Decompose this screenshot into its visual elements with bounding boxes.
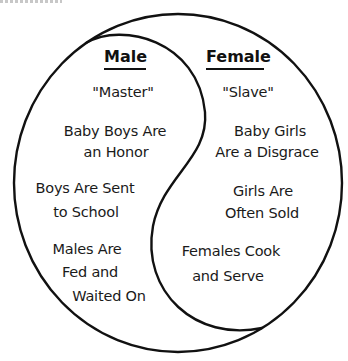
male-item-baby-boys-line2: an Honor — [76, 142, 156, 163]
female-item-baby-girls-line2: Are a Disgrace — [210, 142, 324, 163]
male-item-school-line1: Boys Are Sent — [29, 178, 141, 199]
male-heading: Male — [104, 47, 146, 70]
male-item-fed-line1: Males Are — [44, 239, 130, 260]
male-item-fed-line2: Fed and — [54, 262, 126, 283]
female-heading: Female — [206, 47, 264, 70]
female-item-cook-line2: and Serve — [184, 266, 272, 287]
male-item-baby-boys-line1: Baby Boys Are — [58, 121, 172, 142]
male-item-fed-line3: Waited On — [66, 286, 152, 307]
female-item-baby-girls-line1: Baby Girls — [228, 121, 312, 142]
female-item-sold-line1: Girls Are — [224, 181, 302, 202]
male-item-master: "Master" — [88, 82, 158, 103]
female-item-cook-line1: Females Cook — [176, 241, 286, 262]
female-item-slave: "Slave" — [218, 82, 278, 103]
female-item-sold-line2: Often Sold — [218, 203, 306, 224]
yin-yang-diagram: Male "Master" Baby Boys Are an Honor Boy… — [0, 0, 348, 361]
male-item-school-line2: to School — [46, 202, 126, 223]
